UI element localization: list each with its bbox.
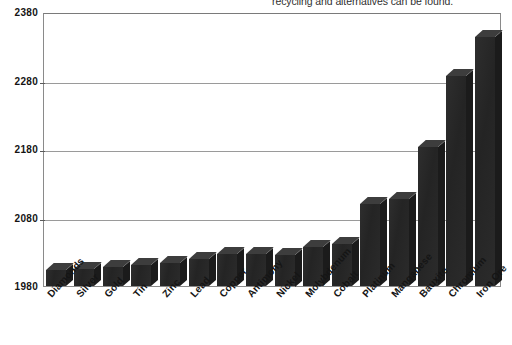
- x-axis-label-gold: Gold: [102, 275, 126, 300]
- x-axis-label-lead: Lead: [188, 274, 212, 299]
- x-axis-label-copper: Copper: [217, 266, 249, 300]
- x-axis-labels: DiamondsSilverGoldTinZincLeadCopperAntim…: [0, 0, 512, 345]
- x-axis-label-cobalt: Cobalt: [331, 268, 360, 299]
- x-axis-label-zinc: Zinc: [160, 276, 182, 299]
- x-axis-label-nickel: Nickel: [274, 270, 302, 300]
- chart-screenshot: recycling and alternatives can be found.…: [0, 0, 512, 345]
- x-axis-label-silver: Silver: [74, 271, 101, 299]
- x-axis-label-tin: Tin: [131, 281, 149, 300]
